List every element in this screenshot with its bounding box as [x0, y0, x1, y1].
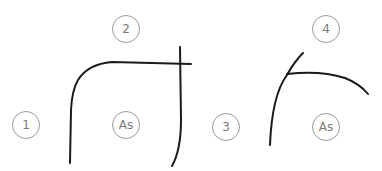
- label-circle-3: 3: [212, 113, 240, 141]
- label-circle-2: 2: [112, 15, 140, 43]
- label-circle-1: 1: [12, 111, 40, 139]
- label-circle-as-left: As: [112, 111, 140, 139]
- label-circle-as-right: As: [312, 113, 340, 141]
- right-arc-stroke: [270, 53, 303, 145]
- right-horizontal-curve: [287, 73, 368, 94]
- label-circle-4: 4: [312, 15, 340, 43]
- left-vertical-stroke: [172, 47, 181, 166]
